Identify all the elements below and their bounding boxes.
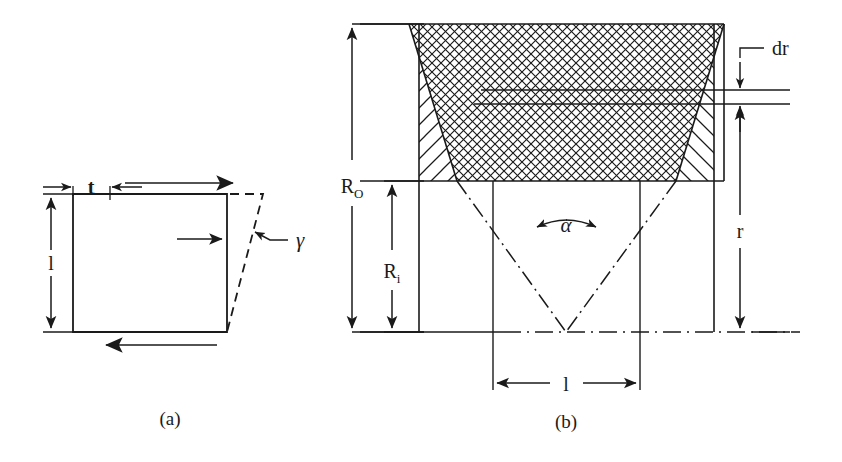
caption-b: (b)	[555, 411, 577, 433]
label-l-a: l	[48, 252, 54, 274]
label-l-b: l	[563, 373, 569, 395]
label-r: r	[737, 220, 744, 242]
hatch-fills	[400, 18, 740, 193]
label-Ri-subscript: i	[397, 271, 401, 286]
caption-a: (a)	[159, 408, 180, 430]
label-gamma: γ	[296, 228, 305, 252]
figure-svg: t l γ (a)	[0, 0, 842, 462]
label-dr: dr	[772, 37, 789, 59]
label-alpha: α	[560, 213, 572, 237]
label-Ri-base: R	[384, 260, 398, 282]
figure-root: t l γ (a)	[0, 0, 842, 462]
label-Ro-base: R	[341, 175, 355, 197]
label-t: t	[88, 176, 95, 198]
label-Ro-subscript: O	[354, 186, 363, 201]
